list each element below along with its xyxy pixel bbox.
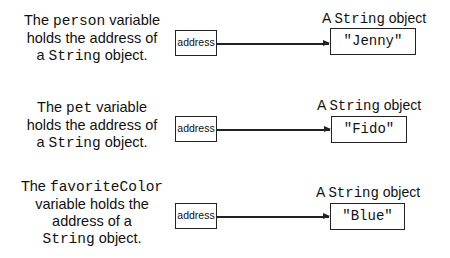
text: object. bbox=[95, 230, 142, 246]
type-name: String bbox=[43, 231, 95, 247]
text: object. bbox=[101, 134, 148, 150]
favoritecolor-object-label: A String object bbox=[316, 184, 420, 201]
text: The bbox=[37, 99, 66, 115]
type-name: String bbox=[334, 11, 384, 27]
text: The bbox=[24, 12, 53, 28]
text: A bbox=[322, 10, 334, 26]
pet-address-box: address bbox=[175, 116, 217, 142]
type-name: String bbox=[49, 135, 101, 151]
type-name: String bbox=[328, 185, 378, 201]
person-reference-arrow bbox=[217, 43, 329, 45]
text: address of a bbox=[8, 213, 176, 230]
text: object bbox=[379, 184, 420, 200]
person-address-box: address bbox=[175, 30, 217, 56]
variable-name: favoriteColor bbox=[50, 179, 163, 195]
text: a bbox=[36, 47, 48, 63]
variable-name: person bbox=[53, 13, 105, 29]
person-object-label: A String object bbox=[322, 10, 426, 27]
text: object bbox=[385, 10, 426, 26]
person-description: The person variable holds the address of… bbox=[18, 12, 166, 65]
favoritecolor-address-box: address bbox=[175, 203, 217, 229]
text: A bbox=[317, 97, 329, 113]
pet-description: The pet variable holds the address of a … bbox=[18, 99, 166, 152]
text: a bbox=[36, 134, 48, 150]
text: The bbox=[21, 178, 50, 194]
type-name: String bbox=[49, 48, 101, 64]
person-string-object: "Jenny" bbox=[330, 28, 416, 55]
text: variable bbox=[105, 12, 160, 28]
favoritecolor-string-object: "Blue" bbox=[330, 203, 405, 230]
pet-reference-arrow bbox=[217, 129, 330, 131]
text: object bbox=[380, 97, 421, 113]
text: A bbox=[316, 184, 328, 200]
favoritecolor-reference-arrow bbox=[217, 216, 329, 218]
type-name: String bbox=[329, 98, 379, 114]
text: variable bbox=[92, 99, 147, 115]
text: variable holds the bbox=[8, 196, 176, 213]
text: holds the address of bbox=[18, 117, 166, 134]
text: holds the address of bbox=[18, 30, 166, 47]
favoritecolor-description: The favoriteColor variable holds the add… bbox=[8, 178, 176, 248]
text: object. bbox=[101, 47, 148, 63]
variable-name: pet bbox=[66, 100, 92, 116]
pet-string-object: "Fido" bbox=[331, 116, 407, 143]
pet-object-label: A String object bbox=[317, 97, 421, 114]
